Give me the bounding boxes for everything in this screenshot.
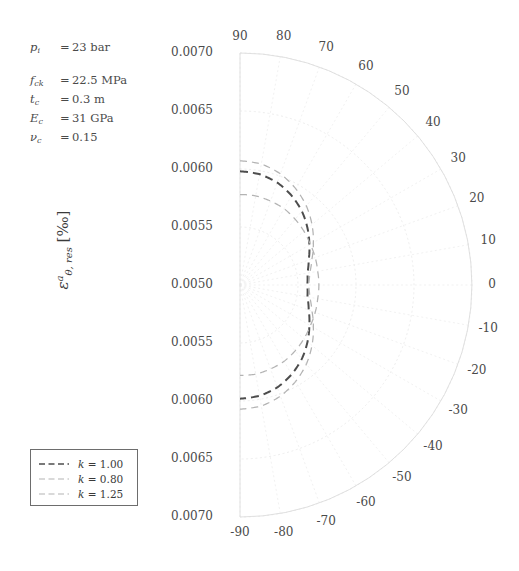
legend-label-k125: k = 1.25 (78, 488, 123, 500)
param-eq-pi: = (60, 40, 72, 54)
param-symbol-pi: pi (30, 40, 60, 55)
grid-spoke (240, 285, 319, 503)
theta-tick-50: 50 (382, 84, 422, 98)
y-axis-label-eps: ε (54, 281, 72, 289)
grid-spoke (240, 67, 319, 285)
r-tick-top-0.0065: 0.0065 (151, 103, 213, 117)
legend-item-k100: k = 1.00 (39, 456, 137, 471)
theta-tick-60: 60 (346, 59, 386, 73)
theta-tick-neg40: -40 (413, 439, 453, 453)
series-line-k-0-80 (240, 195, 319, 376)
r-tick-top-0.0060: 0.0060 (151, 161, 213, 175)
theta-tick-neg70: -70 (306, 514, 346, 528)
theta-tick-neg10: -10 (468, 321, 508, 335)
theta-tick-neg20: -20 (457, 363, 497, 377)
theta-tick-20: 20 (457, 191, 497, 205)
param-symbol-nuc: νc (30, 130, 60, 145)
polar-chart-figure: pi = 23 bar fck = 22.5 MPa tc = 0.3 m Ec… (0, 0, 519, 571)
legend-item-k125: k = 1.25 (39, 486, 137, 501)
grid-spoke (240, 285, 468, 325)
param-row-nuc: νc = 0.15 (30, 130, 127, 149)
grid-spoke (240, 285, 418, 434)
theta-tick-80: 80 (264, 29, 304, 43)
grid-spoke (240, 285, 458, 364)
param-eq-nuc: = (60, 130, 72, 144)
r-tick-top-0.0050: 0.0050 (151, 277, 213, 291)
grid-spoke (240, 245, 468, 285)
param-value-fck: 22.5 MPa (72, 73, 127, 87)
r-tick-top-0.0055: 0.0055 (151, 219, 213, 233)
y-axis-label-superscript: a (54, 275, 65, 281)
theta-tick-0: 0 (472, 277, 512, 291)
param-eq-fck: = (60, 73, 72, 87)
r-tick-bottom-0.0070: 0.0070 (151, 509, 213, 523)
theta-tick-40: 40 (413, 115, 453, 129)
theta-tick-neg90: -90 (220, 525, 260, 539)
legend-label-k100: k = 1.00 (78, 458, 123, 470)
param-eq-tc: = (60, 92, 72, 106)
theta-tick-neg80: -80 (264, 525, 304, 539)
parameter-annotations: pi = 23 bar fck = 22.5 MPa tc = 0.3 m Ec… (30, 40, 127, 149)
theta-tick-90: 90 (220, 29, 260, 43)
param-symbol-fck: fck (30, 73, 60, 88)
theta-tick-10: 10 (468, 233, 508, 247)
theta-tick-30: 30 (438, 151, 478, 165)
legend-item-k080: k = 0.80 (39, 471, 137, 486)
param-symbol-tc: tc (30, 92, 60, 107)
grid-spoke (240, 107, 389, 285)
grid-spoke (240, 206, 458, 285)
param-eq-Ec: = (60, 111, 72, 125)
y-axis-label-unit: [‰] (54, 211, 72, 243)
legend-box: k = 1.00 k = 0.80 k = 1.25 (30, 449, 138, 506)
param-row-fck: fck = 22.5 MPa (30, 73, 127, 92)
theta-tick-neg60: -60 (346, 495, 386, 509)
theta-tick-70: 70 (306, 40, 346, 54)
y-axis-label-subscript: θ, res (63, 247, 74, 275)
param-value-nuc: 0.15 (72, 130, 98, 144)
data-series-group (240, 161, 319, 409)
r-tick-bottom-0.0055: 0.0055 (151, 335, 213, 349)
param-row-tc: tc = 0.3 m (30, 92, 127, 111)
grid-spoke (240, 285, 389, 463)
param-row-Ec: Ec = 31 GPa (30, 111, 127, 130)
param-value-tc: 0.3 m (72, 92, 105, 106)
legend-label-k080: k = 0.80 (78, 473, 123, 485)
grid-spoke (240, 136, 418, 285)
r-tick-top-0.0070: 0.0070 (151, 45, 213, 59)
param-value-pi: 23 bar (72, 40, 110, 54)
theta-tick-neg30: -30 (438, 403, 478, 417)
y-axis-label: εaθ, res [‰] (54, 170, 74, 330)
param-row-pi: pi = 23 bar (30, 40, 127, 59)
theta-tick-neg50: -50 (382, 470, 422, 484)
param-symbol-Ec: Ec (30, 111, 60, 126)
r-tick-bottom-0.0060: 0.0060 (151, 393, 213, 407)
r-tick-bottom-0.0065: 0.0065 (151, 451, 213, 465)
param-spacer (30, 59, 127, 73)
param-value-Ec: 31 GPa (72, 111, 114, 125)
